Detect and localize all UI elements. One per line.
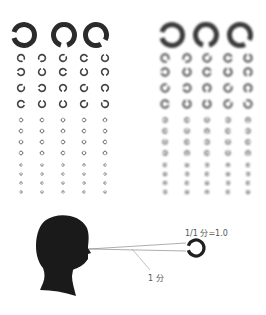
landolt-ring	[244, 68, 251, 75]
landolt-ring	[20, 164, 22, 166]
landolt-ring	[226, 118, 230, 122]
landolt-ring	[244, 54, 251, 61]
landolt-ring	[19, 151, 23, 155]
landolt-ring	[85, 24, 106, 45]
landolt-ring	[227, 191, 230, 194]
landolt-ring	[247, 164, 250, 167]
landolt-ring	[206, 173, 209, 176]
landolt-ring	[205, 140, 209, 144]
landolt-ring	[81, 55, 88, 62]
landolt-ring	[161, 68, 168, 75]
angle-label: 1 分	[148, 272, 164, 283]
landolt-ring	[163, 129, 167, 133]
sharp-landolt-chart	[14, 24, 108, 193]
acuity-diagram	[0, 0, 266, 315]
landolt-ring	[203, 54, 210, 61]
landolt-ring	[206, 191, 209, 194]
landolt-ring	[183, 68, 190, 75]
child-head-silhouette	[36, 215, 91, 296]
landolt-ring	[82, 118, 86, 122]
landolt-ring	[18, 85, 25, 92]
landolt-ring	[19, 118, 23, 122]
landolt-ring	[40, 129, 44, 133]
landolt-ring	[203, 100, 210, 107]
landolt-ring	[18, 55, 25, 62]
landolt-ring	[188, 240, 204, 256]
landolt-ring	[39, 85, 46, 92]
landolt-ring	[102, 69, 109, 76]
landolt-ring	[186, 181, 189, 184]
landolt-ring	[81, 69, 88, 76]
landolt-ring	[60, 101, 67, 108]
sight-lines	[89, 243, 186, 270]
landolt-ring	[41, 164, 43, 166]
landolt-ring	[227, 164, 230, 167]
landolt-ring	[203, 84, 210, 91]
landolt-ring	[161, 100, 168, 107]
landolt-ring	[39, 69, 46, 76]
landolt-ring	[103, 140, 107, 144]
landolt-ring	[60, 55, 67, 62]
landolt-ring	[39, 55, 46, 62]
landolt-ring	[164, 191, 167, 194]
landolt-ring	[185, 118, 189, 122]
landolt-ring	[40, 140, 44, 144]
landolt-ring	[103, 151, 107, 155]
landolt-ring	[53, 24, 74, 45]
landolt-ring	[103, 129, 107, 133]
landolt-ring	[82, 151, 86, 155]
landolt-ring	[61, 151, 65, 155]
landolt-ring	[103, 118, 107, 122]
landolt-ring	[61, 118, 65, 122]
landolt-ring	[185, 129, 189, 133]
landolt-ring	[82, 129, 86, 133]
acuity-label: 1/1 分=1.0	[185, 227, 228, 238]
landolt-ring	[205, 151, 209, 155]
landolt-ring	[244, 100, 251, 107]
landolt-ring	[20, 191, 22, 193]
blurred-landolt-chart	[161, 24, 251, 193]
landolt-ring	[227, 173, 230, 176]
landolt-ring	[206, 182, 209, 185]
landolt-ring	[83, 164, 85, 166]
landolt-ring	[164, 164, 167, 167]
landolt-ring	[196, 24, 217, 45]
landolt-ring	[224, 100, 231, 107]
landolt-ring	[83, 182, 85, 184]
landolt-ring	[83, 173, 85, 175]
landolt-ring	[60, 85, 67, 92]
landolt-ring	[18, 101, 25, 108]
landolt-ring	[19, 140, 23, 144]
landolt-ring	[185, 140, 189, 144]
landolt-ring	[41, 191, 43, 193]
landolt-ring	[62, 191, 64, 193]
landolt-ring	[227, 182, 230, 185]
landolt-ring	[82, 140, 86, 144]
landolt-ring	[226, 151, 230, 155]
landolt-ring	[247, 191, 250, 194]
landolt-ring	[186, 173, 189, 176]
landolt-ring	[20, 182, 22, 184]
landolt-ring	[61, 129, 65, 133]
landolt-ring	[81, 101, 88, 108]
landolt-ring	[41, 173, 43, 175]
landolt-ring	[39, 101, 46, 108]
landolt-ring	[81, 85, 88, 92]
landolt-ring	[226, 140, 230, 144]
landolt-ring	[102, 55, 109, 62]
landolt-ring	[244, 84, 251, 91]
landolt-ring	[19, 129, 23, 133]
landolt-ring	[62, 164, 64, 166]
landolt-ring	[247, 182, 250, 185]
landolt-ring	[224, 68, 231, 75]
landolt-ring	[40, 151, 44, 155]
landolt-ring	[161, 84, 168, 91]
landolt-ring	[60, 69, 67, 76]
landolt-ring	[247, 173, 250, 176]
landolt-ring	[14, 25, 35, 46]
landolt-ring	[224, 54, 231, 61]
landolt-ring	[185, 151, 189, 155]
landolt-ring	[224, 84, 231, 91]
landolt-ring	[186, 191, 189, 194]
landolt-ring	[162, 25, 183, 46]
